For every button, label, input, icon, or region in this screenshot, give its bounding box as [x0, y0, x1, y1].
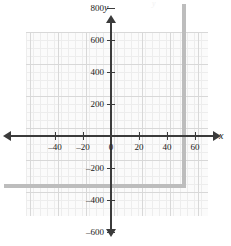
y-axis-tick-label: 400	[0, 68, 104, 77]
coordinate-grid-figure: y –40–200204060 12001000800600400200–200…	[0, 0, 231, 246]
y-axis-line	[110, 22, 112, 230]
x-axis-tick	[139, 132, 140, 140]
y-axis-tick	[107, 200, 115, 201]
y-axis-tick-label: –400	[0, 196, 104, 205]
y-axis-tick-label: 800	[0, 4, 104, 13]
y-axis-label: y	[104, 3, 108, 13]
x-axis-tick-label: –20	[76, 143, 90, 152]
x-axis-tick-label: 0	[109, 143, 114, 152]
y-axis-tick	[107, 232, 115, 233]
x-axis-tick	[195, 132, 196, 140]
y-axis-arrow-top-icon	[106, 15, 116, 23]
x-axis-arrow-left-icon	[3, 131, 11, 141]
top-edge-artifact: y	[152, 0, 156, 8]
x-axis-tick	[83, 132, 84, 140]
x-axis-label: x	[219, 131, 223, 141]
y-axis-tick	[107, 72, 115, 73]
y-axis-tick-label: 200	[0, 100, 104, 109]
major-gridlines	[26, 32, 208, 216]
x-axis-tick-label: 20	[135, 143, 144, 152]
grid-panel	[26, 32, 208, 216]
y-axis-tick-label: –200	[0, 164, 104, 173]
y-axis-arrow-bottom-icon	[106, 229, 116, 237]
x-axis-tick-label: 40	[163, 143, 172, 152]
x-axis-tick	[167, 132, 168, 140]
y-axis-tick	[107, 40, 115, 41]
y-axis-tick	[107, 168, 115, 169]
y-axis-tick	[107, 104, 115, 105]
x-axis-tick-label: 60	[191, 143, 200, 152]
y-axis-tick-label: –600	[0, 228, 104, 237]
y-axis-tick-label: 600	[0, 36, 104, 45]
x-axis-line	[10, 135, 215, 137]
x-axis-tick-label: –40	[48, 143, 62, 152]
x-axis-tick	[55, 132, 56, 140]
grid-shadow-right	[182, 4, 186, 188]
grid-shadow-bottom	[4, 184, 186, 188]
